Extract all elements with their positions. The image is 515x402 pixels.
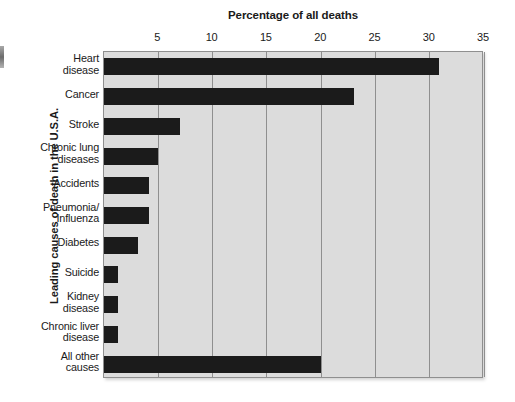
bar	[104, 88, 354, 105]
bar-chart-figure: Percentage of all deaths Leading causes …	[0, 0, 515, 402]
gridline-30	[429, 52, 430, 377]
bar	[104, 207, 149, 224]
x-tick-label-35: 35	[468, 31, 498, 43]
x-tick-label-5: 5	[142, 31, 172, 43]
bar	[104, 356, 321, 373]
category-label-line: disease	[1, 332, 99, 344]
x-tick-label-15: 15	[251, 31, 281, 43]
category-label: Pneumonia/Influenza	[1, 202, 99, 225]
bar	[104, 148, 158, 165]
bar	[104, 118, 180, 135]
x-tick-label-10: 10	[197, 31, 227, 43]
chart-title: Percentage of all deaths	[103, 9, 483, 21]
category-label-line: Stroke	[1, 119, 99, 131]
x-tick-label-30: 30	[414, 31, 444, 43]
category-label: Kidneydisease	[1, 291, 99, 314]
category-label: Cancer	[1, 89, 99, 101]
category-label: Accidents	[1, 178, 99, 190]
category-label: Heartdisease	[1, 53, 99, 76]
category-label-line: causes	[1, 362, 99, 374]
category-label: Diabetes	[1, 237, 99, 249]
category-label-line: Suicide	[1, 267, 99, 279]
bar	[104, 237, 138, 254]
category-label: Suicide	[1, 267, 99, 279]
bar	[104, 326, 118, 343]
y-axis-category-labels: HeartdiseaseCancerStrokeChronic lungdise…	[0, 51, 99, 378]
category-label-line: Diabetes	[1, 237, 99, 249]
category-label-line: Influenza	[1, 213, 99, 225]
x-tick-label-20: 20	[305, 31, 335, 43]
category-label-line: disease	[1, 303, 99, 315]
category-label-line: diseases	[1, 154, 99, 166]
bar	[104, 266, 118, 283]
category-label-line: Cancer	[1, 89, 99, 101]
bar	[104, 296, 118, 313]
category-label: Stroke	[1, 119, 99, 131]
gridline-25	[375, 52, 376, 377]
gridline-35	[484, 52, 485, 377]
category-label-line: disease	[1, 65, 99, 77]
bar	[104, 58, 439, 75]
plot-area	[103, 51, 483, 378]
category-label: Chronic lungdiseases	[1, 142, 99, 165]
x-tick-label-25: 25	[359, 31, 389, 43]
category-label: All othercauses	[1, 351, 99, 374]
category-label: Chronic liverdisease	[1, 321, 99, 344]
bar	[104, 177, 149, 194]
category-label-line: Accidents	[1, 178, 99, 190]
category-label-line: Kidney	[1, 291, 99, 303]
